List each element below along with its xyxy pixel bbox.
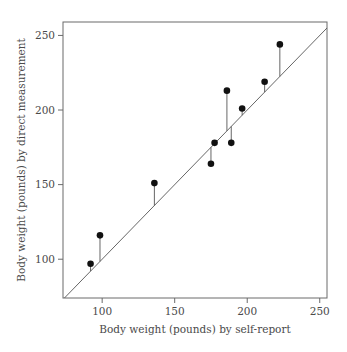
y-tick-label: 200	[35, 104, 55, 116]
data-point	[239, 105, 246, 112]
data-point	[211, 140, 218, 147]
data-point	[228, 140, 235, 147]
scatter-chart: 100150200250 100150200250 Body weight (p…	[0, 0, 347, 352]
data-point	[277, 41, 284, 48]
x-tick-label: 250	[310, 305, 330, 317]
data-point	[208, 160, 215, 167]
x-tick-label: 200	[237, 305, 257, 317]
data-point	[261, 78, 268, 85]
x-tick-label: 150	[165, 305, 185, 317]
data-point	[224, 87, 231, 94]
chart-background	[0, 0, 347, 352]
y-tick-label: 250	[35, 29, 55, 41]
x-tick-label: 100	[92, 305, 112, 317]
y-tick-label: 150	[35, 178, 55, 190]
data-point	[97, 232, 104, 239]
x-axis-title: Body weight (pounds) by self-report	[99, 323, 291, 335]
data-point	[151, 180, 158, 187]
data-point	[87, 260, 94, 267]
y-axis-title: Body weight (pounds) by direct measureme…	[15, 37, 27, 281]
y-tick-label: 100	[35, 253, 55, 265]
